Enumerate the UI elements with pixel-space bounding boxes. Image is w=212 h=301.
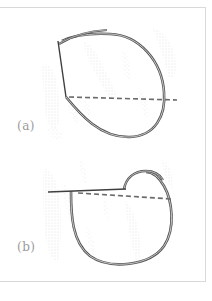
panel-b xyxy=(43,160,173,264)
panel-b-label: (b) xyxy=(17,240,36,254)
panel-b-horizontal-segment xyxy=(48,189,126,192)
panel-a-upper-tail xyxy=(59,30,107,44)
diagram-drawing xyxy=(0,0,212,301)
panel-b-loop-curve xyxy=(71,172,172,264)
panel-b-upper-hook xyxy=(124,171,163,189)
panel-a-vertical-segment xyxy=(58,41,66,97)
panel-b-dashed-reference-line xyxy=(78,193,172,199)
panel-a-dashed-reference-line xyxy=(69,97,177,100)
panel-a xyxy=(42,28,177,139)
panel-a-label: (a) xyxy=(17,119,35,133)
diagram-figure: (a) (b) xyxy=(0,0,212,301)
